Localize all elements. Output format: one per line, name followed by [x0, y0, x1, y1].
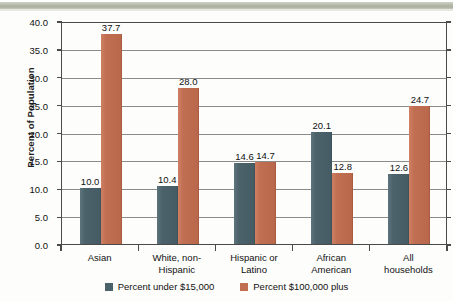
- bar-series-1-category-3: [332, 173, 353, 244]
- y-axis-tick-right: [446, 161, 451, 162]
- plot-area: 10.037.710.428.014.614.720.112.812.624.7: [61, 22, 447, 245]
- x-axis-tick: [60, 245, 61, 251]
- chart-legend: Percent under $15,000Percent $100,000 pl…: [0, 281, 453, 292]
- bar-series-0-category-3: [311, 132, 332, 244]
- bar-series-0-category-2: [234, 163, 255, 244]
- y-axis-tick-label: 0.0: [35, 240, 48, 251]
- bar-value-label: 10.0: [81, 176, 100, 187]
- legend-item-0[interactable]: Percent under $15,000: [105, 281, 215, 292]
- legend-swatch-icon: [240, 283, 248, 291]
- top-banner-decoration: [0, 2, 453, 9]
- bar-value-label: 14.7: [256, 150, 275, 161]
- x-axis-tick: [215, 245, 216, 251]
- y-axis-tick-labels: 40.035.030.025.020.015.010.05.00.0: [0, 22, 56, 245]
- category-label-0: Asian: [88, 252, 112, 264]
- bar-series-1-category-2: [255, 162, 276, 244]
- bar-value-label: 37.7: [102, 22, 121, 33]
- bar-value-label: 24.7: [411, 94, 430, 105]
- y-axis-tick-label: 15.0: [30, 156, 49, 167]
- y-axis-tick-label: 30.0: [30, 72, 49, 83]
- category-label-3: African American: [311, 252, 351, 275]
- legend-swatch-icon: [105, 283, 113, 291]
- y-axis-tick-left: [57, 21, 62, 22]
- y-axis-tick-left: [57, 217, 62, 218]
- bar-value-label: 10.4: [158, 174, 177, 185]
- y-axis-tick-label: 40.0: [30, 17, 49, 28]
- y-axis-tick-right: [446, 49, 451, 50]
- y-axis-tick-label: 25.0: [30, 100, 49, 111]
- legend-label: Percent under $15,000: [118, 281, 215, 292]
- x-axis-tick: [292, 245, 293, 251]
- category-label-1: White, non- Hispanic: [153, 252, 202, 275]
- y-axis-tick-left: [57, 77, 62, 78]
- y-axis-tick-left: [57, 189, 62, 190]
- bar-value-label: 12.6: [390, 162, 409, 173]
- y-axis-tick-right: [446, 21, 451, 22]
- x-axis-tick: [446, 245, 447, 251]
- category-label-2: Hispanic or Latino: [230, 252, 278, 275]
- y-axis-tick-right: [446, 217, 451, 218]
- bar-value-label: 14.6: [235, 151, 254, 162]
- bar-series-1-category-4: [409, 106, 430, 244]
- x-axis-tick: [138, 245, 139, 251]
- bar-series-1-category-0: [101, 34, 122, 244]
- y-axis-tick-right: [446, 105, 451, 106]
- bar-value-label: 20.1: [312, 120, 331, 131]
- x-axis-tick: [369, 245, 370, 251]
- bar-series-0-category-1: [157, 186, 178, 244]
- chart-page: Percent of Population 40.035.030.025.020…: [0, 0, 453, 301]
- y-axis-tick-label: 10.0: [30, 184, 49, 195]
- bar-series-0-category-0: [80, 188, 101, 244]
- top-banner-shadow: [0, 9, 453, 11]
- y-axis-tick-left: [57, 105, 62, 106]
- legend-item-1[interactable]: Percent $100,000 plus: [240, 281, 348, 292]
- y-axis-tick-right: [446, 133, 451, 134]
- y-axis-tick-left: [57, 161, 62, 162]
- y-axis-tick-left: [57, 49, 62, 50]
- y-axis-tick-right: [446, 189, 451, 190]
- bar-series-1-category-1: [178, 88, 199, 244]
- y-axis-tick-label: 35.0: [30, 44, 49, 55]
- bar-value-label: 28.0: [179, 76, 198, 87]
- y-axis-tick-right: [446, 77, 451, 78]
- y-axis-tick-left: [57, 133, 62, 134]
- bar-value-label: 12.8: [333, 161, 352, 172]
- bar-series-0-category-4: [388, 174, 409, 244]
- legend-label: Percent $100,000 plus: [253, 281, 348, 292]
- y-axis-tick-label: 5.0: [35, 212, 48, 223]
- category-label-4: All households: [384, 252, 433, 275]
- y-axis-tick-label: 20.0: [30, 128, 49, 139]
